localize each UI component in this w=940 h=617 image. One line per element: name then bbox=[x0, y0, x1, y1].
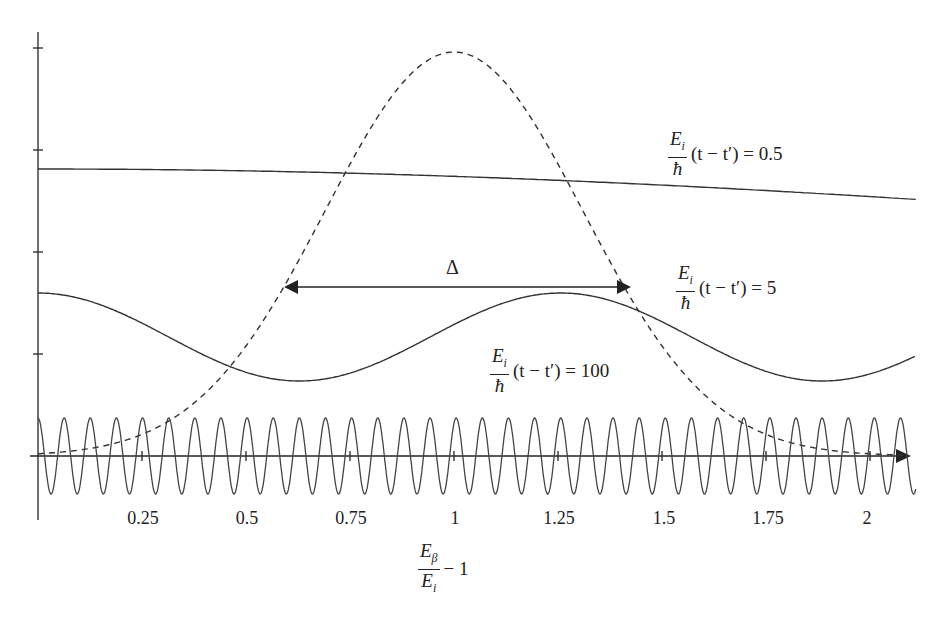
curve-k-5 bbox=[38, 293, 915, 381]
x-tick-label-1: 1 bbox=[451, 508, 460, 529]
curve-label-0.5: Eiħ(t − t′) = 0.5 bbox=[668, 128, 783, 180]
x-axis-label: EβEi− 1 bbox=[418, 540, 469, 599]
gaussian-dashed-curve bbox=[38, 52, 903, 455]
curve-label-5: Eiħ(t − t′) = 5 bbox=[676, 262, 776, 314]
x-tick-label-0.25: 0.25 bbox=[127, 508, 159, 529]
x-tick-label-1.25: 1.25 bbox=[543, 508, 575, 529]
delta-width-arrow bbox=[284, 280, 631, 294]
delta-label: Δ bbox=[446, 256, 459, 279]
x-tick-label-0.5: 0.5 bbox=[236, 508, 259, 529]
x-axis-arrowhead bbox=[896, 449, 911, 463]
x-tick-label-1.5: 1.5 bbox=[653, 508, 676, 529]
curve-label-100: Eiħ(t − t′) = 100 bbox=[490, 345, 609, 397]
x-tick-label-1.75: 1.75 bbox=[752, 508, 784, 529]
x-tick-label-2: 2 bbox=[863, 508, 872, 529]
arrowhead-right-icon bbox=[617, 280, 631, 294]
x-tick-label-0.75: 0.75 bbox=[335, 508, 367, 529]
curve-k-0.5 bbox=[38, 169, 916, 199]
